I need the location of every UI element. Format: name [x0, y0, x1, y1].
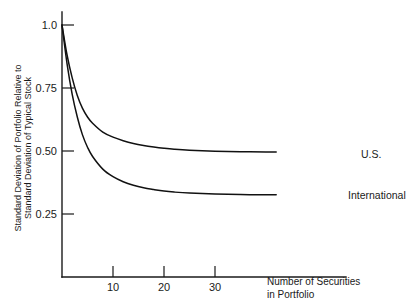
x-tick-label-30: 30 — [209, 281, 221, 293]
y-tick-label-1.0: 1.0 — [42, 19, 57, 31]
y-tick-label-0.75: 0.75 — [36, 82, 57, 94]
series-line-us — [62, 25, 276, 152]
x-axis-title: Number of Securities in Portfolio — [267, 276, 360, 300]
y-axis-title-line1: Standard Deviation of Portfolio Relative… — [13, 64, 23, 231]
x-tick-label-10: 10 — [107, 281, 119, 293]
y-tick-label-0.25: 0.25 — [36, 208, 57, 220]
x-axis-title-line1: Number of Securities — [267, 276, 360, 287]
series-label-us: U.S. — [361, 148, 381, 160]
x-axis-tick-labels: 10 20 30 — [107, 281, 221, 293]
y-tick-label-0.50: 0.50 — [36, 145, 57, 157]
x-tick-label-20: 20 — [158, 281, 170, 293]
series-label-international: International — [348, 189, 406, 201]
x-axis-title-line2: in Portfolio — [267, 289, 315, 300]
x-axis-ticks — [113, 266, 215, 277]
series-line-international — [62, 25, 276, 195]
y-axis-ticks — [62, 25, 74, 214]
portfolio-diversification-chart: 1.0 0.75 0.50 0.25 10 20 30 U.S. Interna… — [0, 0, 416, 308]
chart-figure: 1.0 0.75 0.50 0.25 10 20 30 U.S. Interna… — [0, 0, 416, 308]
y-axis-title: Standard Deviation of Portfolio Relative… — [13, 64, 33, 231]
y-axis-title-line2: Standard Deviation of Typical Stock — [23, 77, 33, 219]
y-axis-tick-labels: 1.0 0.75 0.50 0.25 — [36, 19, 57, 220]
